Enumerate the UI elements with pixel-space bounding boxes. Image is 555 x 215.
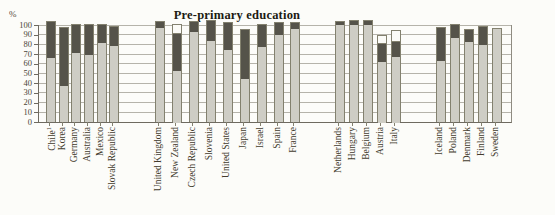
bar-korea-segment-light [60,86,68,122]
x-tick-mark-slovenia [209,122,210,126]
bar-france-segment-light [291,29,299,122]
x-tick-mark-chile [49,122,50,126]
bar-israel-segment-dark [258,25,266,47]
footnote-marker: 1 [45,127,52,130]
bar-united-kingdom-segment-light [156,28,164,122]
bar-poland [450,24,460,122]
y-tick-label-90: 90 [2,30,32,39]
x-tick-mark-czech-republic [192,122,193,126]
x-label-australia: Australia [81,127,93,207]
bar-iceland [436,27,446,122]
y-tick-label-10: 10 [2,108,32,117]
bar-iceland-segment-light [437,61,445,122]
bar-belgium-segment-light [364,25,372,122]
y-axis-unit-label: % [9,9,17,19]
x-tick-mark-australia [87,122,88,126]
bar-italy-segment-light [392,57,400,123]
x-label-denmark: Denmark [461,127,473,207]
bar-mexico-segment-light [98,43,106,122]
bar-new-zealand-segment-dark [173,34,181,71]
bar-czech-republic-segment-light [190,32,198,122]
x-tick-mark-denmark [467,122,468,126]
bar-iceland-segment-dark [437,28,445,61]
bar-czech-republic [189,21,199,122]
x-tick-mark-germany [74,122,75,126]
x-label-slovenia: Slovenia [203,127,215,207]
bar-sweden [492,28,502,122]
bar-austria-segment-dark [378,44,386,61]
x-label-sweden: Sweden [489,127,501,207]
bar-israel-segment-light [258,47,266,122]
x-tick-mark-united-states [226,122,227,126]
bar-korea-segment-dark [60,28,68,86]
x-tick-mark-netherlands [338,122,339,126]
x-label-japan: Japan [237,127,249,207]
bar-australia-segment-light [85,55,93,122]
x-label-iceland: Iceland [433,127,445,207]
bar-korea [59,27,69,122]
bar-poland-segment-dark [451,25,459,38]
x-label-austria: Austria [374,127,386,207]
y-tick-label-0: 0 [2,118,32,127]
x-label-united-states: United States [220,127,232,207]
y-tick-label-70: 70 [2,50,32,59]
x-tick-mark-slovak-republic [112,122,113,126]
bar-poland-segment-light [451,38,459,122]
bar-slovak-republic-segment-dark [110,27,118,46]
y-tick-label-50: 50 [2,69,32,78]
bar-israel [257,24,267,122]
bar-germany-segment-dark [72,25,80,53]
bar-czech-republic-segment-dark [190,22,198,32]
bar-australia-segment-dark [85,25,93,55]
x-tick-mark-poland [453,122,454,126]
bar-slovak-republic [109,26,119,122]
bar-slovak-republic-segment-light [110,46,118,122]
x-label-united-kingdom: United Kingdom [152,127,164,207]
bar-chile-segment-dark [47,22,55,58]
bar-mexico [97,24,107,122]
bar-spain [274,22,284,122]
x-tick-mark-israel [260,122,261,126]
bar-germany-segment-light [72,53,80,122]
bar-austria [377,35,387,122]
bar-australia [84,24,94,122]
bar-denmark-segment-dark [465,30,473,43]
bar-mexico-segment-dark [98,25,106,43]
bar-slovenia [206,20,216,122]
bar-finland-segment-dark [479,27,487,45]
bar-united-states [223,22,233,122]
x-label-italy: Italy [388,127,400,207]
x-tick-mark-france [293,122,294,126]
bar-united-kingdom [155,21,165,122]
bar-austria-segment-light [378,62,386,123]
bar-united-states-segment-light [224,50,232,122]
bar-spain-segment-light [275,35,283,122]
x-label-new-zealand: New Zealand [169,127,181,207]
bar-japan-segment-light [241,79,249,122]
x-tick-mark-korea [62,122,63,126]
x-label-belgium: Belgium [360,127,372,207]
bar-japan [240,29,250,122]
y-tick-label-30: 30 [2,88,32,97]
x-label-france: France [287,127,299,207]
bar-hungary-segment-light [350,25,358,122]
bar-new-zealand [172,24,182,122]
bar-slovenia-segment-dark [207,21,215,41]
y-tick-label-100: 100 [2,21,32,30]
x-tick-mark-united-kingdom [158,122,159,126]
bar-italy [391,30,401,122]
figure: % Pre-primary education 0102030405060708… [0,0,555,215]
x-tick-mark-hungary [352,122,353,126]
bar-spain-segment-dark [275,23,283,35]
bar-denmark [464,29,474,122]
x-tick-mark-mexico [100,122,101,126]
bar-italy-segment-white [392,31,400,43]
y-tick-label-40: 40 [2,79,32,88]
bar-chile-segment-light [47,58,55,122]
bar-denmark-segment-light [465,42,473,122]
bar-japan-segment-dark [241,30,249,79]
plot-area [38,25,512,123]
x-tick-mark-finland [481,122,482,126]
y-tick-label-60: 60 [2,59,32,68]
x-label-korea: Korea [56,127,68,207]
